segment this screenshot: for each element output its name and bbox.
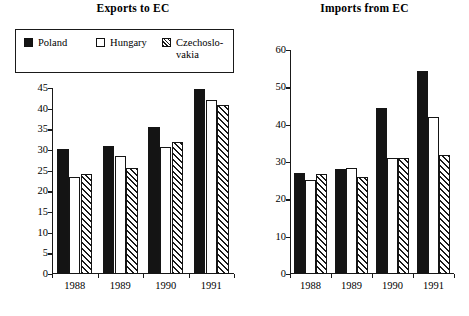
x-tick-label-1991: 1991	[423, 281, 444, 292]
x-tick-mark-icon	[143, 274, 144, 278]
bar-czechoslovakia-1991	[439, 155, 449, 274]
bar-poland-1989	[103, 146, 114, 274]
bar-group-exports-1991: 1991	[189, 88, 235, 274]
bar-poland-1991	[194, 89, 205, 274]
plot-area-imports: 0102030405060 1988198919901991	[290, 50, 454, 274]
y-tick-label: 35	[38, 124, 49, 135]
x-tick-mark-icon	[331, 274, 332, 278]
figure-grouped-bar-charts: Exports to EC Poland Hungary Czechoslo-v…	[0, 0, 469, 316]
y-tick-label: 30	[276, 157, 287, 168]
legend-row: Poland Hungary Czechoslo-vakia	[24, 37, 229, 61]
legend-label-czechoslovakia: Czechoslo-vakia	[176, 37, 229, 61]
bar-czechoslovakia-1988	[316, 174, 326, 274]
legend-swatch-poland-icon	[24, 38, 33, 47]
y-tick-label: 50	[276, 82, 287, 93]
bar-hungary-1989	[346, 168, 356, 274]
bar-group-imports-1990: 1990	[372, 50, 413, 274]
y-tick-label: 60	[276, 45, 287, 56]
bar-hungary-1990	[160, 147, 171, 274]
bar-hungary-1989	[115, 156, 126, 274]
bar-hungary-1990	[387, 158, 397, 274]
legend-item-poland: Poland	[24, 37, 96, 49]
y-tick-label: 0	[281, 269, 286, 280]
bar-group-exports-1989: 1989	[98, 88, 144, 274]
chart-title-exports: Exports to EC	[0, 2, 248, 14]
legend-swatch-hungary-icon	[96, 38, 105, 47]
bar-poland-1991	[417, 71, 427, 274]
bar-hungary-1988	[69, 177, 80, 274]
y-tick-label: 5	[43, 248, 48, 259]
bar-group-exports-1988: 1988	[52, 88, 98, 274]
bar-poland-1988	[294, 173, 304, 274]
x-tick-mark-icon	[234, 274, 235, 278]
legend-swatch-czechoslovakia-icon	[162, 38, 171, 47]
x-tick-mark-icon	[413, 274, 414, 278]
x-tick-label-1991: 1991	[201, 281, 222, 292]
legend-label-poland: Poland	[38, 37, 67, 49]
legend-label-hungary: Hungary	[110, 37, 147, 49]
panel-imports: Imports from EC 0102030405060 1988198919…	[248, 0, 469, 316]
bar-czechoslovakia-1991	[217, 105, 228, 274]
y-tick-label: 20	[38, 186, 49, 197]
bar-group-imports-1988: 1988	[290, 50, 331, 274]
bar-group-exports-1990: 1990	[143, 88, 189, 274]
x-tick-mark-icon	[454, 274, 455, 278]
bar-poland-1989	[335, 169, 345, 274]
bar-group-imports-1989: 1989	[331, 50, 372, 274]
x-tick-mark-icon	[52, 274, 53, 278]
y-tick-label: 10	[276, 231, 287, 242]
bar-hungary-1988	[305, 180, 315, 274]
bar-poland-1990	[376, 108, 386, 274]
x-tick-mark-icon	[98, 274, 99, 278]
bar-czechoslovakia-1990	[398, 158, 408, 274]
y-tick-label: 10	[38, 227, 49, 238]
bar-czechoslovakia-1989	[357, 177, 367, 274]
x-tick-mark-icon	[290, 274, 291, 278]
bar-czechoslovakia-1988	[81, 174, 92, 274]
x-tick-mark-icon	[189, 274, 190, 278]
y-tick-label: 45	[38, 83, 49, 94]
legend-item-czechoslovakia: Czechoslo-vakia	[162, 37, 229, 61]
x-tick-label-1990: 1990	[382, 281, 403, 292]
y-tick-label: 40	[276, 119, 287, 130]
x-tick-label-1988: 1988	[64, 281, 85, 292]
x-tick-label-1989: 1989	[110, 281, 131, 292]
bar-poland-1990	[148, 127, 159, 274]
bar-poland-1988	[57, 149, 68, 274]
x-tick-label-1990: 1990	[155, 281, 176, 292]
y-tick-label: 15	[38, 207, 49, 218]
chart-title-imports: Imports from EC	[248, 2, 469, 14]
x-tick-label-1989: 1989	[341, 281, 362, 292]
x-tick-label-1988: 1988	[300, 281, 321, 292]
legend-item-hungary: Hungary	[96, 37, 162, 49]
panel-exports: Exports to EC Poland Hungary Czechoslo-v…	[0, 0, 248, 316]
y-tick-label: 25	[38, 165, 49, 176]
bar-czechoslovakia-1990	[172, 142, 183, 274]
y-tick-label: 20	[276, 194, 287, 205]
x-tick-mark-icon	[372, 274, 373, 278]
bar-hungary-1991	[206, 100, 217, 274]
y-tick-label: 40	[38, 103, 49, 114]
bar-group-imports-1991: 1991	[413, 50, 454, 274]
y-tick-label: 0	[43, 269, 48, 280]
bar-czechoslovakia-1989	[126, 168, 137, 274]
plot-area-exports: 051015202530354045 1988198919901991	[52, 88, 234, 274]
y-tick-label: 30	[38, 145, 49, 156]
legend: Poland Hungary Czechoslo-vakia	[15, 29, 234, 73]
bar-hungary-1991	[428, 117, 438, 274]
